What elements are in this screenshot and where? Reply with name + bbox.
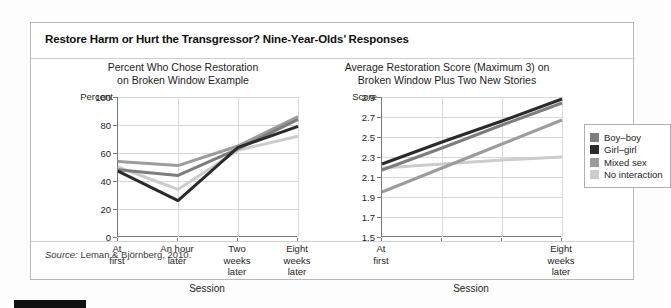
y-tick-mark	[377, 117, 381, 118]
title-divider	[31, 58, 635, 59]
legend-item-label: Mixed sex	[604, 157, 647, 168]
legend-item-label: Girl–girl	[604, 144, 637, 155]
legend: Boy–boyGirl–girlMixed sexNo interaction	[584, 124, 671, 188]
series-layer	[118, 97, 298, 237]
legend-swatch-icon	[590, 158, 599, 167]
y-tick-label: 60	[81, 148, 111, 159]
y-tick-mark	[377, 137, 381, 138]
chart-left: Percent Who Chose Restoration on Broken …	[49, 61, 317, 237]
series-line-boy-boy	[118, 119, 298, 175]
legend-item: Boy–boy	[590, 132, 663, 143]
legend-item: No interaction	[590, 169, 663, 180]
y-tick-mark	[377, 217, 381, 218]
chart-right-title-line1: Average Restoration Score (Maximum 3) on	[313, 61, 581, 74]
y-tick-label: 40	[81, 176, 111, 187]
chart-left-title: Percent Who Chose Restoration on Broken …	[49, 61, 317, 86]
chart-left-plot-area	[117, 97, 297, 237]
series-line-boy-boy	[382, 103, 562, 170]
x-tick-label: At first	[350, 243, 412, 266]
legend-item: Girl–girl	[590, 144, 663, 155]
source-note: Source: Leman & Björnberg, 2010.	[45, 249, 191, 260]
y-tick-label: 20	[81, 204, 111, 215]
source-divider	[31, 241, 635, 242]
y-tick-mark	[113, 153, 117, 154]
chart-left-title-line2: on Broken Window Example	[49, 74, 317, 87]
series-layer	[382, 97, 562, 237]
source-label: Source:	[45, 249, 78, 260]
y-tick-label: 1.7	[345, 212, 375, 223]
chart-right-title: Average Restoration Score (Maximum 3) on…	[313, 61, 581, 86]
y-tick-mark	[377, 157, 381, 158]
legend-item: Mixed sex	[590, 157, 663, 168]
x-tick-label: Eight weeks later	[530, 243, 592, 278]
chart-right-plot-area	[381, 97, 561, 237]
chart-right: Average Restoration Score (Maximum 3) on…	[313, 61, 581, 237]
legend-swatch-icon	[590, 170, 599, 179]
legend-swatch-icon	[590, 145, 599, 154]
gridline-vertical	[562, 97, 563, 237]
y-tick-label: 1.9	[345, 192, 375, 203]
x-tick-label: Eight weeks later	[266, 243, 328, 278]
y-tick-mark	[113, 181, 117, 182]
y-tick-mark	[113, 209, 117, 210]
y-tick-mark	[377, 97, 381, 98]
figure-frame: Restore Harm or Hurt the Transgressor? N…	[30, 22, 634, 280]
y-tick-label: 80	[81, 120, 111, 131]
legend-item-label: No interaction	[604, 169, 663, 180]
chart-left-x-axis-title: Session	[147, 283, 267, 294]
figure-title: Restore Harm or Hurt the Transgressor? N…	[45, 33, 409, 45]
x-tick-label: Two weeks later	[206, 243, 268, 278]
y-tick-mark	[377, 177, 381, 178]
source-text: Leman & Björnberg, 2010.	[78, 249, 192, 260]
y-tick-label: 2.3	[345, 152, 375, 163]
y-tick-label: 100	[81, 92, 111, 103]
y-tick-mark	[113, 97, 117, 98]
y-tick-mark	[377, 197, 381, 198]
legend-swatch-icon	[590, 133, 599, 142]
legend-item-label: Boy–boy	[604, 132, 641, 143]
y-tick-label: 2.5	[345, 132, 375, 143]
y-tick-label: 2.1	[345, 172, 375, 183]
y-tick-label: 2.9	[345, 92, 375, 103]
chart-right-x-axis-title: Session	[411, 283, 531, 294]
bottom-black-tab	[14, 300, 86, 308]
chart-right-title-line2: Broken Window Plus Two New Stories	[313, 74, 581, 87]
y-tick-mark	[113, 125, 117, 126]
y-tick-label: 2.7	[345, 112, 375, 123]
chart-left-title-line1: Percent Who Chose Restoration	[49, 61, 317, 74]
